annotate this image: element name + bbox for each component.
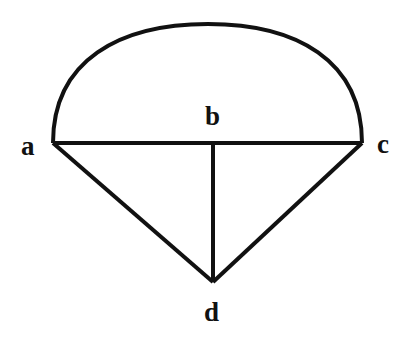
edge-c-d [213, 143, 362, 282]
node-label-d: d [204, 299, 219, 326]
node-label-b: b [205, 103, 220, 130]
graph-diagram [0, 0, 406, 345]
edge-a-d [53, 143, 213, 282]
node-label-a: a [21, 133, 35, 160]
node-label-c: c [377, 131, 389, 158]
